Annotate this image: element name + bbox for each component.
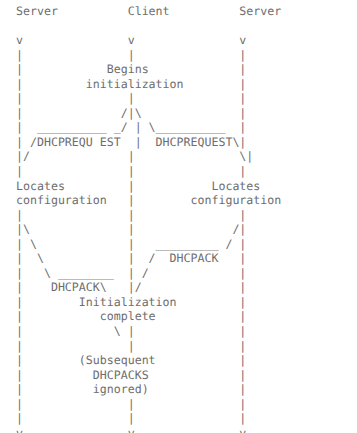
- dhcp-interaction-ascii-diagram: Server Client Server v v v | | | | Begin…: [16, 4, 281, 433]
